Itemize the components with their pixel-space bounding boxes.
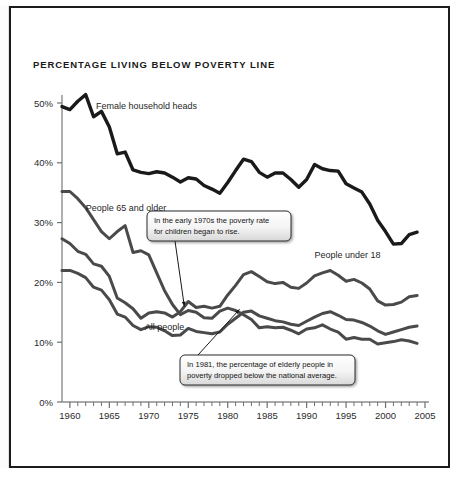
annotation-text-0-0: In the early 1970s the poverty rate <box>154 216 269 225</box>
annotation-text-0-1: for children began to rise. <box>154 227 240 236</box>
y-axis-tick-label: 50% <box>34 98 54 109</box>
x-axis-tick-label: 2000 <box>375 410 396 421</box>
x-axis-tick-label: 1975 <box>178 410 199 421</box>
poverty-line-chart: 0%10%20%30%40%50% 1960196519701975198019… <box>0 0 460 477</box>
annotation-text-1-1: poverty dropped below the national avera… <box>187 371 337 380</box>
x-axis-tick-label: 1970 <box>138 410 159 421</box>
y-axis-tick-label: 20% <box>34 277 54 288</box>
y-axis-tick-label: 0% <box>39 397 53 408</box>
x-axis-tick-label: 1995 <box>336 410 357 421</box>
y-axis-tick-label: 30% <box>34 217 54 228</box>
x-axis-tick-labels: 1960196519701975198019851990199520002005 <box>59 410 435 421</box>
x-axis-tick-label: 1965 <box>99 410 120 421</box>
x-axis-tick-label: 1985 <box>257 410 278 421</box>
chart-page: PERCENTAGE LIVING BELOW POVERTY LINE 0%1… <box>0 0 460 477</box>
x-axis-tick-label: 2005 <box>414 410 435 421</box>
chart-annotations: In the early 1970s the poverty ratefor c… <box>147 211 355 385</box>
series-label-2: People under 18 <box>315 250 381 260</box>
x-axis-tick-label: 1990 <box>296 410 317 421</box>
y-axis-tick-label: 10% <box>34 337 54 348</box>
annotation-text-1-0: In 1981, the percentage of elderly peopl… <box>187 360 333 369</box>
y-axis-tick-labels: 0%10%20%30%40%50% <box>34 98 54 408</box>
series-label-3: All people <box>145 322 185 332</box>
x-axis-tick-label: 1980 <box>217 410 238 421</box>
series-label-0: Female household heads <box>96 101 198 111</box>
annotation-leader-0 <box>175 241 184 306</box>
x-axis-tick-label: 1960 <box>59 410 80 421</box>
y-axis-tick-label: 40% <box>34 157 54 168</box>
